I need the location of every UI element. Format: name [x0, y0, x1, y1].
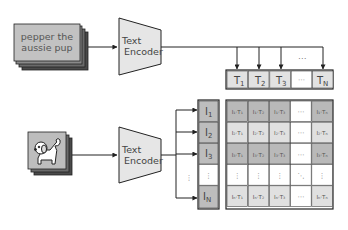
matrix-cell-label: Iₙ·T₂: [253, 194, 264, 200]
matrix-cell-label: ⋮: [276, 172, 283, 180]
matrix-cell-label: I₃·T₁: [232, 152, 243, 158]
image-encoder: Text Encoder: [119, 127, 163, 183]
text-embeddings-row: T1 T2 T3 ⋯ TN: [226, 70, 333, 89]
matrix-cell-label: ⋯: [297, 108, 304, 116]
matrix-cell-label: I₃·T₃: [274, 152, 285, 158]
matrix-cell-label: Iₙ·Tₙ: [316, 194, 327, 200]
text-input-line2: aussie pup: [21, 42, 72, 53]
matrix-cell-label: I₁·Tₙ: [316, 109, 327, 115]
matrix-cell-label: I₃·Tₙ: [316, 152, 327, 158]
matrix-cell-label: I₁·T₃: [274, 109, 285, 115]
matrix-cell-label: I₁·T₁: [232, 109, 243, 115]
matrix-cell-label: Iₙ·T₃: [274, 194, 285, 200]
matrix-cell-label: ⋯: [297, 129, 304, 137]
image-input-card-stack: [28, 132, 72, 175]
text-embedding-ellipsis: ⋯: [298, 54, 306, 63]
matrix-cell-label: ⋱: [297, 172, 304, 180]
text-encoder-line1: Text: [121, 35, 141, 46]
image-embeddings-column: I1 I2 I3 ⋮ IN: [198, 100, 219, 209]
t-ellipsis: ⋯: [298, 76, 305, 84]
matrix-cell-label: I₂·T₃: [274, 130, 285, 136]
matrix-cell-label: ⋯: [297, 193, 304, 201]
clip-diagram: pepper the aussie pup Text Encoder ⋯ T1 …: [0, 0, 348, 230]
similarity-matrix: I₁·T₁I₁·T₂I₁·T₃⋯I₁·TₙI₂·T₁I₂·T₂I₂·T₃⋯I₂·…: [226, 100, 333, 209]
image-encoder-line1: Text: [121, 144, 141, 155]
matrix-cell-label: ⋮: [234, 172, 241, 180]
matrix-cell-label: ⋮: [319, 172, 326, 180]
text-input-card-stack: pepper the aussie pup: [14, 24, 88, 70]
image-encoder-line2: Encoder: [124, 155, 163, 166]
matrix-cell-label: I₃·T₂: [253, 152, 264, 158]
text-input-line1: pepper the: [21, 31, 73, 42]
matrix-cell-label: I₂·Tₙ: [316, 130, 327, 136]
matrix-cell-label: I₂·T₁: [232, 130, 243, 136]
matrix-cell-label: ⋯: [297, 151, 304, 159]
image-bus-ellipsis: ⋮: [186, 174, 193, 182]
i-ellipsis: ⋮: [205, 172, 212, 180]
matrix-cell-label: I₂·T₂: [253, 130, 264, 136]
text-encoder-line2: Encoder: [124, 46, 163, 57]
matrix-cell-label: ⋮: [255, 172, 262, 180]
text-encoder: Text Encoder: [119, 18, 163, 75]
matrix-cell-label: I₁·T₂: [253, 109, 264, 115]
matrix-cell-label: Iₙ·T₁: [232, 194, 243, 200]
image-embedding-bus: [161, 110, 197, 198]
